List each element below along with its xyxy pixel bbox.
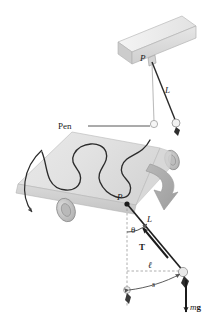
pivot-label-upper: P — [139, 53, 146, 63]
fbd-pivot-dot — [124, 201, 129, 206]
fbd-length-label: L — [146, 214, 152, 224]
fbd-angle-label: θ — [131, 225, 135, 235]
rest-string — [152, 62, 154, 122]
fbd-tension-arrow — [143, 228, 168, 258]
fbd-rest-bob — [124, 287, 131, 304]
physics-figure: P L Pen — [0, 0, 202, 326]
fbd-weight-label: mg — [190, 302, 202, 312]
fbd-tension-label: T — [139, 242, 145, 252]
pendulum-string-upper — [152, 62, 176, 122]
fbd-weight-gravity: g — [197, 302, 202, 312]
fbd-bob — [178, 267, 189, 289]
bob-at-rest — [150, 120, 157, 127]
string-length-label-upper: L — [164, 85, 170, 95]
fbd-string — [127, 204, 184, 272]
fbd-horizontal-label: ℓ — [148, 260, 152, 270]
fbd-arc-label: s — [152, 280, 155, 289]
fbd-pivot-label: P — [116, 192, 123, 202]
support-beam — [118, 16, 196, 64]
bob-displaced — [172, 119, 180, 136]
pen-label: Pen — [58, 121, 72, 131]
figure-canvas: P L Pen — [0, 0, 202, 326]
